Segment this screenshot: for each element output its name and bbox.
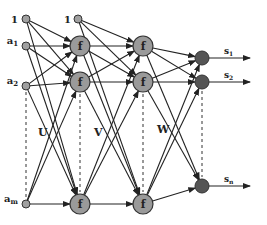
input-label: a1 [7, 35, 18, 48]
input-node [22, 82, 30, 90]
connection-arrow [29, 22, 74, 74]
connection-arrow [29, 52, 72, 84]
network-svg: ffffff 1a1a2am1s1s2snUVW [0, 0, 267, 225]
output-label: s2 [224, 70, 233, 81]
input-node [22, 200, 30, 208]
connection-arrow [82, 21, 134, 43]
input-node [22, 42, 30, 50]
connection-arrow [147, 64, 200, 194]
neural-network-diagram: ffffff 1a1a2am1s1s2snUVW [0, 0, 267, 225]
input-label: am [4, 193, 18, 206]
output-node [195, 75, 209, 89]
weight-matrix-label: V [93, 126, 103, 139]
input-node [22, 15, 30, 23]
input-label: 1 [11, 14, 18, 25]
connection-arrow [30, 83, 70, 86]
connection-arrow [27, 50, 76, 195]
connection-arrow [147, 55, 199, 179]
weight-matrix-label: U [38, 126, 48, 139]
bias-label: 1 [64, 14, 71, 25]
labels: 1a1a2am1s1s2snUVW [4, 14, 234, 206]
bias-node [74, 15, 82, 23]
connection-arrow [153, 188, 196, 201]
weight-matrix-label: W [156, 123, 170, 136]
output-label: sn [224, 174, 234, 185]
input-label: a2 [7, 75, 18, 88]
output-node [195, 179, 209, 193]
output-label: s1 [224, 46, 233, 57]
connection-arrow [152, 61, 195, 79]
connection-arrow [27, 55, 76, 200]
output-node [195, 51, 209, 65]
connection-arrow [27, 23, 77, 195]
connection-arrow [29, 48, 71, 76]
